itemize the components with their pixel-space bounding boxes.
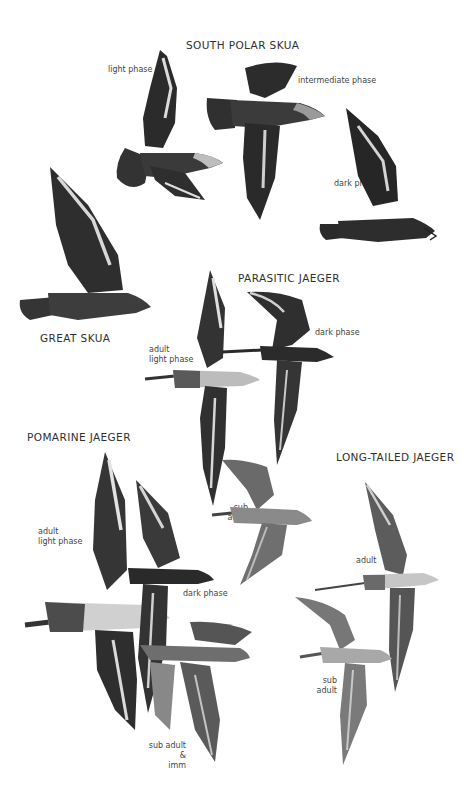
south-polar-skua-dark-phase-figure [318,106,438,251]
species-title-long-tailed-jaeger: LONG-TAILED JAEGER [336,451,454,463]
parasitic-jaeger-dark-phase-figure [222,290,340,470]
pomarine-jaeger-sub-adult-imm-figure [140,620,255,765]
species-title-pomarine-jaeger: POMARINE JAEGER [27,431,131,443]
illustration-plate: SOUTH POLAR SKUA light phase intermediat… [0,0,468,804]
long-tailed-jaeger-sub-adult-figure [295,595,395,765]
great-skua-figure [18,165,158,325]
south-polar-skua-intermediate-phase-figure [205,58,330,223]
species-title-great-skua: GREAT SKUA [40,332,110,344]
parasitic-jaeger-sub-adult-figure [212,455,317,590]
